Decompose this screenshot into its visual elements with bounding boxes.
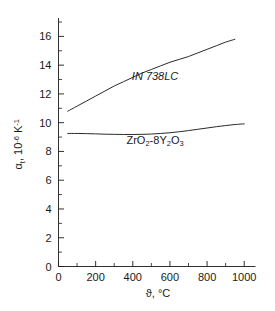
series-group: [68, 39, 244, 134]
chart-canvas: 0246810121416 02004006008001000 IN 738LC…: [0, 0, 275, 311]
x-tick-label: 800: [198, 271, 216, 283]
y-tick-label: 14: [39, 59, 51, 71]
y-tick-label: 16: [39, 30, 51, 42]
x-tick-label: 0: [55, 271, 61, 283]
x-tick-label: 1000: [232, 271, 256, 283]
y-axis-tick-labels: 0246810121416: [39, 30, 51, 272]
series-label-in738lc: IN 738LC: [132, 70, 179, 82]
x-axis-title: ϑ, °C: [146, 287, 171, 299]
x-axis-ticks: [59, 261, 245, 267]
x-tick-label: 600: [161, 271, 179, 283]
chart-figure: 0246810121416 02004006008001000 IN 738LC…: [0, 0, 275, 311]
series-label-zro2-8y2o3: ZrO2-8Y2O3: [126, 134, 183, 149]
y-axis-ticks: [59, 22, 65, 267]
y-tick-label: 0: [45, 261, 51, 273]
y-tick-label: 6: [45, 174, 51, 186]
x-tick-label: 400: [124, 271, 142, 283]
y-tick-label: 2: [45, 232, 51, 244]
x-axis-tick-labels: 02004006008001000: [55, 271, 256, 283]
y-tick-label: 4: [45, 203, 51, 215]
y-axis-title: αt, 10-6 K-1: [12, 119, 27, 170]
y-tick-label: 10: [39, 117, 51, 129]
x-tick-label: 200: [86, 271, 104, 283]
y-tick-label: 8: [45, 145, 51, 157]
y-tick-label: 12: [39, 88, 51, 100]
